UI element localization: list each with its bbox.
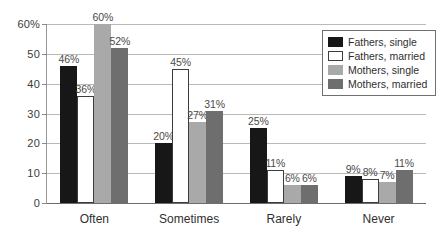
bar-value-label: 45% [166,56,195,68]
y-axis-tick-mark [42,173,47,174]
legend-swatch-icon [328,37,343,47]
bar-value-label: 52% [105,35,134,47]
y-axis-tick-mark [42,203,47,204]
legend-item-mothers-married[interactable]: Mothers, married [328,77,431,91]
bar [345,176,362,203]
x-axis-category-label: Sometimes [142,212,237,226]
bar-value-label: 60% [88,11,117,23]
y-axis-tick-mark [42,84,47,85]
legend-swatch-icon [328,65,343,75]
bar-chart: 0102030405060% 46%36%60%52%20%45%27%31%2… [0,0,440,241]
bar [379,182,396,203]
bar-value-label: 25% [244,115,273,127]
bar [301,185,318,203]
y-axis-tick-label: 20 [0,137,40,149]
legend-item-mothers-single[interactable]: Mothers, single [328,63,431,77]
y-axis-tick-label: 10 [0,167,40,179]
legend-item-fathers-married[interactable]: Fathers, married [328,49,431,63]
bar-value-label: 31% [200,98,229,110]
bar-value-label: 46% [54,53,83,65]
y-axis-tick-label: 50 [0,48,40,60]
y-axis-tick-mark [42,143,47,144]
legend-label: Fathers, married [348,50,425,62]
bar [94,24,111,203]
bar [111,48,128,203]
y-axis-tick-mark [42,24,47,25]
bar [155,143,172,203]
x-axis-category-label: Never [331,212,426,226]
bar [77,96,94,203]
bar [189,122,206,203]
bar-value-label: 6% [295,172,324,184]
y-axis-tick-label: 60% [0,18,40,30]
y-axis-tick-label: 0 [0,197,40,209]
bar [362,179,379,203]
x-axis-category-label: Often [47,212,142,226]
bar [396,170,413,203]
y-axis-tick-label: 40 [0,78,40,90]
y-axis-tick-mark [42,54,47,55]
bar-value-label: 11% [261,157,290,169]
bar [172,69,189,203]
legend-swatch-icon [328,51,343,61]
bar-value-label: 11% [390,157,419,169]
legend-label: Mothers, married [348,78,427,90]
y-axis-tick-mark [42,114,47,115]
y-axis-tick-label: 30 [0,108,40,120]
legend: Fathers, single Fathers, married Mothers… [322,30,436,96]
x-axis-line [45,203,426,204]
x-axis-category-label: Rarely [237,212,332,226]
legend-label: Fathers, single [348,36,417,48]
bar [206,111,223,203]
bar [284,185,301,203]
legend-item-fathers-single[interactable]: Fathers, single [328,35,431,49]
legend-label: Mothers, single [348,64,419,76]
legend-swatch-icon [328,79,343,89]
